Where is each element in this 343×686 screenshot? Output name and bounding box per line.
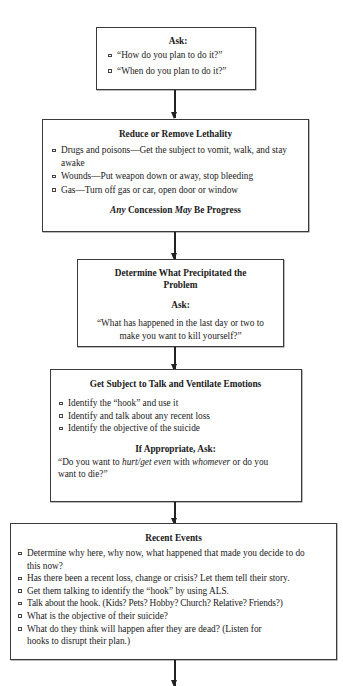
recent-event-item: Has there been a recent loss, change or …	[17, 572, 330, 585]
lethality-item: Drugs and poisons—Get the subject to vom…	[51, 144, 296, 169]
recent-event-item: Get them talking to identify the “hook” …	[17, 585, 330, 598]
precipitated-ask-label: Ask:	[86, 299, 275, 311]
ventilate-emotions-title: Get Subject to Talk and Ventilate Emotio…	[58, 378, 293, 390]
recent-events-title: Recent Events	[17, 532, 330, 544]
flow-arrow-1	[174, 90, 176, 118]
flow-arrow-5	[174, 660, 176, 686]
reduce-lethality-box: Reduce or Remove Lethality Drugs and poi…	[42, 119, 309, 232]
question-hurt: hurt/get even	[122, 457, 171, 467]
flow-arrow-4	[174, 502, 176, 524]
recent-event-item: What is the objective of their suicide?	[17, 610, 330, 623]
if-appropriate-label: If Appropriate, Ask:	[58, 443, 293, 455]
reduce-lethality-title: Reduce or Remove Lethality	[51, 128, 300, 140]
reduce-lethality-list: Drugs and poisons—Get the subject to vom…	[51, 144, 296, 196]
ask-plan-item: “How do you plan to do it?”	[107, 49, 249, 62]
concession-text: Concession	[126, 205, 175, 215]
concession-any: Any	[110, 205, 126, 215]
ventilate-emotions-list: Identify the “hook” and use it Identify …	[58, 397, 293, 435]
precipitated-problem-box: Determine What Precipitated the Problem …	[77, 259, 284, 347]
flow-arrow-2	[174, 232, 176, 259]
ask-plan-list: “How do you plan to do it?” “When do you…	[107, 49, 249, 77]
recent-event-item: Determine why here, why now, what happen…	[17, 547, 330, 572]
precipitated-question: “What has happened in the last day or tw…	[86, 317, 275, 342]
recent-events-list: Determine why here, why now, what happen…	[17, 547, 330, 648]
ask-plan-item: “When do you plan to do it?”	[107, 65, 249, 78]
recent-events-box: Recent Events Determine why here, why no…	[10, 523, 337, 660]
lethality-item: Gas—Turn off gas or car, open door or wi…	[51, 184, 296, 197]
ventilate-item: Identify the “hook” and use it	[58, 397, 293, 410]
lethality-item: Wounds—Put weapon down or away, stop ble…	[51, 170, 296, 183]
question-part3: with	[171, 457, 192, 467]
concession-may: May	[175, 205, 192, 215]
precipitated-problem-title: Determine What Precipitated the Problem	[86, 267, 275, 291]
ask-plan-box: Ask: “How do you plan to do it?” “When d…	[96, 27, 256, 90]
ventilate-emotions-box: Get Subject to Talk and Ventilate Emotio…	[50, 369, 302, 502]
recent-event-item: Talk about the hook. (Kids? Pets? Hobby?…	[17, 597, 330, 610]
question-whomever: whomever	[192, 457, 230, 467]
recent-event-item: What do they think will happen after the…	[17, 623, 330, 648]
hurt-or-die-question: “Do you want to hurt/get even with whome…	[58, 456, 293, 481]
concession-progress: Be Progress	[192, 205, 241, 215]
ask-plan-title: Ask:	[107, 35, 249, 47]
flow-arrow-3	[174, 347, 176, 370]
concession-note: Any Concession May Be Progress	[51, 204, 300, 216]
question-part1: “Do you want to	[58, 457, 122, 467]
ventilate-item: Identify the objective of the suicide	[58, 422, 293, 435]
ventilate-item: Identify and talk about any recent loss	[58, 410, 293, 423]
